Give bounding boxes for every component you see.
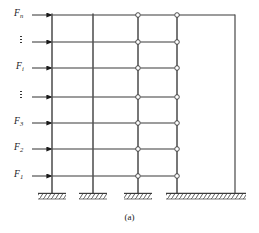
support-column-1-hatch: [38, 193, 66, 199]
support-column-3-hatch: [124, 193, 152, 199]
hinges-group: [136, 13, 180, 179]
supports-group: [38, 193, 246, 199]
link-beams-group: [141, 15, 175, 176]
force-label-Fn-base: F: [14, 8, 20, 18]
force-label-Fn: Fn: [14, 9, 23, 19]
support-wall-hatch: [166, 193, 246, 199]
hinge-L2-col3: [136, 66, 141, 71]
force-label-F3-base: F: [14, 116, 20, 126]
figure-caption: (a): [0, 212, 259, 222]
frame-beams-group: [52, 15, 138, 176]
force-label-F1: F1: [14, 170, 23, 180]
hinge-L0-wall: [175, 13, 180, 18]
load-arrows-group: [32, 15, 52, 176]
ellipsis-dot: [20, 36, 21, 37]
support-column-2: [79, 193, 107, 199]
hinge-L3-wall: [175, 95, 180, 100]
hinge-L0-col3: [136, 13, 141, 18]
structural-frame-figure: Fn Fi F3 F2 F1 (a): [0, 0, 259, 233]
frame-drawing: [0, 0, 259, 233]
support-column-3: [124, 193, 152, 199]
vertical-ellipsis-upper: [16, 36, 26, 43]
hinge-L1-wall: [175, 40, 180, 45]
ellipsis-dot: [20, 91, 21, 92]
hinge-L3-col3: [136, 95, 141, 100]
ellipsis-dot: [20, 42, 21, 43]
support-column-2-hatch: [79, 193, 107, 199]
support-column-1: [38, 193, 66, 199]
hinge-L6-col3: [136, 174, 141, 179]
hinge-L4-col3: [136, 121, 141, 126]
support-wall: [166, 193, 246, 199]
vertical-ellipsis-lower: [16, 91, 26, 98]
force-label-Fi: Fi: [16, 62, 24, 72]
force-label-Fn-sub: n: [20, 12, 23, 19]
force-label-F3-sub: 3: [20, 120, 23, 127]
force-label-F2-sub: 2: [20, 146, 23, 153]
columns-group: [52, 14, 138, 193]
force-label-F2: F2: [14, 143, 23, 153]
force-label-Fi-base: F: [16, 61, 22, 71]
ellipsis-dot: [20, 39, 21, 40]
force-label-F1-base: F: [14, 169, 20, 179]
ellipsis-dot: [20, 94, 21, 95]
force-label-F2-base: F: [14, 142, 20, 152]
hinge-L1-col3: [136, 40, 141, 45]
force-label-Fi-sub: i: [22, 65, 24, 72]
force-label-F3: F3: [14, 117, 23, 127]
shear-wall-group: [176, 14, 235, 193]
force-label-F1-sub: 1: [20, 173, 23, 180]
hinge-L2-wall: [175, 66, 180, 71]
hinge-L6-wall: [175, 174, 180, 179]
hinge-L4-wall: [175, 121, 180, 126]
hinge-L5-col3: [136, 147, 141, 152]
ellipsis-dot: [20, 97, 21, 98]
hinge-L5-wall: [175, 147, 180, 152]
